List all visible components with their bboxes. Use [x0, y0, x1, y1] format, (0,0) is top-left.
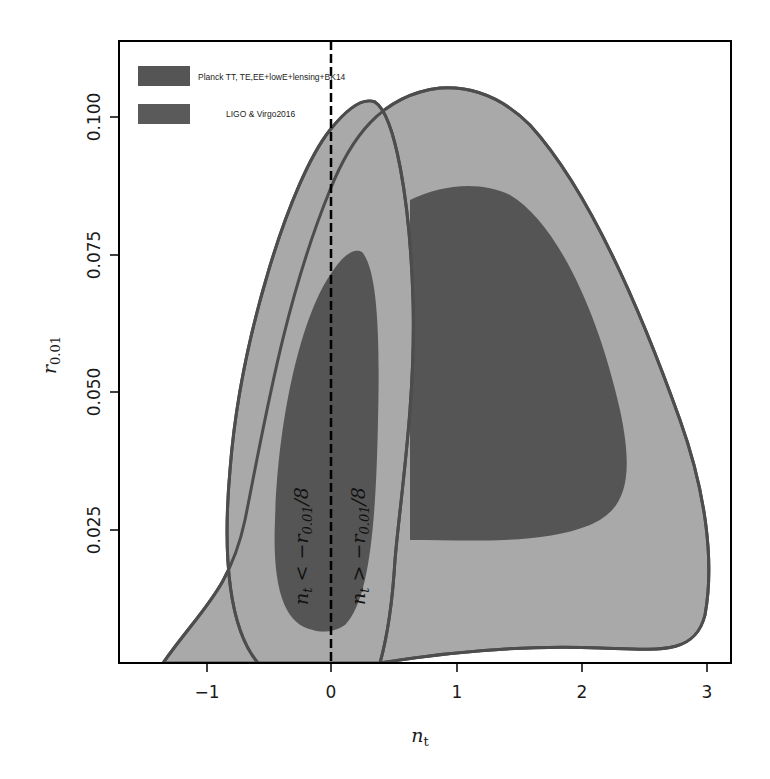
annotation-left: nt < −r0.01/8 — [290, 487, 315, 605]
x-tick-label: 1 — [452, 682, 463, 702]
y-axis-label: r0.01 — [38, 336, 63, 374]
y-tick-label: 0.025 — [84, 506, 104, 555]
y-axis: 0.025 0.050 0.075 0.100 r0.01 — [38, 93, 119, 555]
legend: Planck TT, TE,EE+lowE+lensing+BK14 LIGO … — [138, 66, 346, 124]
x-tick-label: 3 — [702, 682, 713, 702]
legend-label-ligo: LIGO & Virgo2016 — [226, 109, 296, 119]
contour-chart: nt < −r0.01/8 nt > −r0.01/8 Planck TT, T… — [0, 0, 770, 779]
legend-swatch-ligo — [138, 104, 190, 124]
y-tick-label: 0.100 — [84, 93, 104, 142]
x-tick-label: 2 — [577, 682, 588, 702]
legend-swatch-planck — [138, 66, 190, 86]
x-tick-label: −1 — [194, 682, 219, 702]
plot-area: nt < −r0.01/8 nt > −r0.01/8 — [163, 41, 709, 663]
annotation-right: nt > −r0.01/8 — [347, 487, 372, 605]
x-tick-label: 0 — [326, 682, 337, 702]
y-tick-label: 0.050 — [84, 368, 104, 417]
x-axis: −1 0 1 2 3 nt — [194, 663, 712, 749]
x-axis-label: nt — [411, 724, 429, 749]
y-tick-label: 0.075 — [84, 231, 104, 280]
legend-label-planck: Planck TT, TE,EE+lowE+lensing+BK14 — [198, 72, 346, 82]
